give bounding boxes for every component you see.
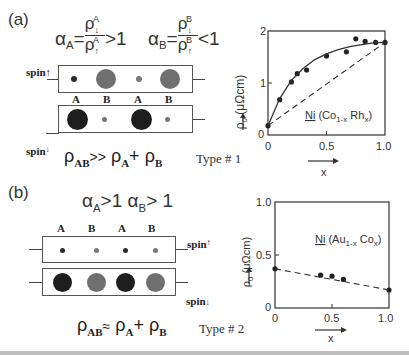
lead-line <box>193 79 205 80</box>
rho: ρ <box>145 146 155 166</box>
rho: ρ <box>149 315 159 335</box>
svg-text:ρ0 (μΩcm): ρ0 (μΩcm) <box>233 75 249 130</box>
subscript: AB <box>74 157 89 169</box>
spin-down-channel-b <box>42 268 176 296</box>
atom-b-large <box>96 69 116 89</box>
site-label: A <box>72 93 80 105</box>
fraction: ρ↓A ρ↑A <box>85 16 105 55</box>
spin-down-label-b: spin↓ <box>186 295 210 307</box>
alpha-a-formula: αA= ρ↓A ρ↑A >1 <box>55 20 127 59</box>
spin-down-sub: ↓ <box>94 25 99 35</box>
lead-line <box>176 282 188 283</box>
site-label: A <box>118 222 126 234</box>
numerator: ρ↓A <box>85 16 105 34</box>
svg-text:x: x <box>321 166 327 178</box>
panel-b-label: (b) <box>8 183 29 203</box>
sup-b: B <box>186 14 192 24</box>
y-axis-label: ρ0 (μΩcm) <box>233 75 249 130</box>
spin-up-channel-a <box>58 65 193 93</box>
svg-text:ρ0 (μΩcm): ρ0 (μΩcm) <box>240 237 255 287</box>
panel-a-label: (a) <box>8 10 29 30</box>
lead-line <box>29 282 42 283</box>
spin-up-sub: ↑ <box>187 46 192 56</box>
svg-text:0: 0 <box>265 301 271 313</box>
spin-up-label-b: spin↑ <box>187 238 211 250</box>
atom-a-small <box>136 76 142 82</box>
spin-text: spin <box>186 295 206 307</box>
relation-gt-1: > 1 <box>146 190 173 211</box>
svg-text:1.0: 1.0 <box>376 140 391 152</box>
atom-a-large <box>131 109 152 130</box>
rho: ρ <box>115 315 125 335</box>
atom-b-large <box>87 273 106 292</box>
rho: ρ <box>77 315 87 335</box>
svg-text:0: 0 <box>272 312 278 324</box>
spin-text: spin <box>187 238 207 250</box>
data-point <box>329 274 334 279</box>
arrow-down-icon: ↓ <box>46 145 50 154</box>
svg-text:1.0: 1.0 <box>256 196 271 208</box>
svg-text:2: 2 <box>260 25 266 37</box>
svg-text:0: 0 <box>265 140 271 152</box>
spin-text: spin <box>26 66 46 78</box>
spin-down-channel-a <box>58 105 193 133</box>
rho: ρ <box>64 146 74 166</box>
spin-up-channel-b <box>42 236 176 263</box>
spin-up-label-a: spin↑ <box>26 66 51 78</box>
atom-b-small <box>153 248 158 253</box>
numerator: ρ↓B <box>178 16 198 34</box>
resistivity-relation-a: ρAB>> ρA+ ρB <box>64 146 162 169</box>
plot-frame <box>275 202 389 308</box>
denominator: ρ↑B <box>178 37 198 55</box>
arrow-up-icon: ↑ <box>46 66 52 78</box>
rho: ρ <box>111 146 121 166</box>
data-point <box>341 277 346 282</box>
spin-down-label-a: spin↓ <box>26 145 50 157</box>
chart-a: ρ0 (μΩcm) 0 1 2 0 0.5 1.0 x Ni (Co1-x Rh… <box>230 20 409 200</box>
subscript: AB <box>87 326 102 338</box>
site-label: B <box>103 93 110 105</box>
resistivity-relation-b: ρAB≈ ρA+ ρB <box>77 315 167 338</box>
alpha-condition-b: αA>1 αB> 1 <box>82 190 173 214</box>
svg-text:0: 0 <box>258 128 264 140</box>
alpha-symbol: α <box>128 190 139 211</box>
site-label: A <box>134 93 142 105</box>
spin-up-sub: ↑ <box>94 46 99 56</box>
atom-b-large <box>160 69 180 89</box>
equals-sign: = <box>167 28 178 49</box>
spin-down-sub: ↓ <box>187 25 192 35</box>
atom-b-large <box>146 273 165 292</box>
relation-gt-1: >1 <box>105 28 127 49</box>
alpha-subscript: B <box>139 202 147 214</box>
data-point <box>353 36 358 41</box>
svg-text:0.5: 0.5 <box>256 249 271 261</box>
subscript: B <box>155 157 162 169</box>
site-label: B <box>148 222 155 234</box>
relation-gt-1: >1 <box>101 190 123 211</box>
arrow-right-icon <box>333 158 339 164</box>
site-label: A <box>57 222 65 234</box>
chart-b-series <box>272 266 391 292</box>
site-label: B <box>165 93 172 105</box>
data-point <box>304 67 309 72</box>
bottom-separator <box>0 351 409 355</box>
atom-b-small <box>102 117 107 122</box>
plus: + <box>133 315 144 335</box>
svg-text:0.5: 0.5 <box>324 312 339 324</box>
alpha-symbol: α <box>55 28 66 49</box>
atom-a-large <box>67 109 88 130</box>
alpha-subscript: A <box>93 202 101 214</box>
lead-line <box>193 119 205 120</box>
atom-a-small <box>71 76 77 82</box>
svg-text:Ni (Co1-x Rhx): Ni (Co1-x Rhx) <box>305 109 372 124</box>
sup-a: A <box>93 35 99 45</box>
site-label: B <box>88 222 95 234</box>
atom-a-small <box>123 248 128 253</box>
sup-a: A <box>93 14 99 24</box>
arrow-up-icon: ↑ <box>207 238 211 247</box>
alpha-symbol: α <box>82 190 93 211</box>
alpha-subscript: A <box>66 39 74 51</box>
chart-b: ρ0 (μΩcm) 0 0.5 1.0 0 0.5 1.0 x Ni (Au1-… <box>230 190 409 350</box>
atom-a-large <box>116 273 135 292</box>
denominator: ρ↑A <box>85 37 105 55</box>
